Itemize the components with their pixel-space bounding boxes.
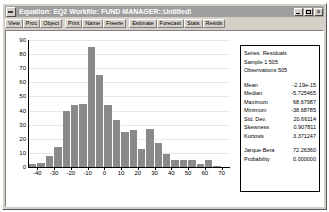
stat-row-jarque-bera: Jarque-Bera 72.26360: [244, 146, 316, 155]
histogram-bar: [63, 111, 71, 167]
histogram-bar: [180, 160, 188, 167]
stat-key-mean: Mean: [244, 81, 258, 90]
stat-value-skewness: 0.907811: [293, 123, 316, 132]
histogram-bar: [113, 120, 121, 167]
stat-row-std-dev: Std. Dev. 20.66114: [244, 115, 316, 124]
histogram-bar: [146, 129, 154, 167]
stat-key-skewness: Skewness: [244, 123, 269, 132]
y-axis-tick-label: 60: [19, 79, 26, 85]
stat-row-kurtosis: Kurtosis 3.371247: [244, 132, 316, 141]
histogram-bar: [155, 143, 163, 167]
stat-row-minimum: Minimum -38.68785: [244, 106, 316, 115]
stat-value-jarque-bera: 72.26360: [293, 146, 316, 155]
histogram-bar: [130, 130, 138, 167]
stat-value-mean: -2.19e-15: [292, 81, 316, 90]
x-axis-tick-label: 10: [118, 170, 125, 177]
title-bar: Equation: EQ2 Workfile: FUND MANAGER::Un…: [5, 6, 324, 17]
stat-key-median: Median: [244, 89, 262, 98]
x-axis-tick-label: 50: [185, 170, 192, 177]
stat-row-skewness: Skewness 0.907811: [244, 123, 316, 132]
histogram-bar: [205, 160, 213, 167]
histogram-bar: [121, 132, 129, 167]
y-axis-tick-label: 10: [19, 150, 26, 156]
x-axis-tick-label: -20: [67, 170, 76, 177]
histogram-bar: [46, 156, 54, 167]
stat-key-probability: Probability: [244, 155, 270, 164]
stat-value-maximum: 68.67987: [293, 98, 316, 107]
client-area: 0102030405060708090 -40-30-20-1001020304…: [5, 30, 324, 207]
stat-key-jarque-bera: Jarque-Bera: [244, 146, 274, 155]
window-title: Equation: EQ2 Workfile: FUND MANAGER::Un…: [19, 8, 294, 16]
window-controls: [294, 8, 323, 16]
y-axis-tick-label: 20: [19, 136, 26, 142]
x-axis-tick-label: 0: [103, 170, 106, 177]
histogram-bar: [71, 105, 79, 167]
toolbar-button-print[interactable]: Print: [65, 19, 82, 28]
y-axis-tick-label: 90: [19, 37, 26, 43]
y-axis-tick-label: 30: [19, 122, 26, 128]
stat-row-mean: Mean -2.19e-15: [244, 81, 316, 90]
stat-observations-label: Observations 505: [244, 66, 316, 75]
toolbar-button-stats[interactable]: Stats: [184, 19, 203, 28]
histogram-bar: [96, 75, 104, 167]
stat-value-std-dev: 20.66114: [293, 115, 316, 124]
eviews-equation-window: Equation: EQ2 Workfile: FUND MANAGER::Un…: [0, 0, 329, 212]
stat-value-median: -5.725465: [291, 89, 316, 98]
histogram-bar: [54, 147, 62, 167]
close-icon[interactable]: [314, 8, 323, 16]
stat-key-maximum: Maximum: [244, 98, 268, 107]
toolbar-button-proc[interactable]: Proc: [23, 19, 40, 28]
toolbar-button-view[interactable]: View: [5, 19, 23, 28]
y-axis-tick-label: 40: [19, 108, 26, 114]
stat-value-minimum: -38.68785: [291, 106, 316, 115]
histogram-bar: [163, 154, 171, 167]
minimize-icon[interactable]: [294, 8, 303, 16]
histogram-bar: [138, 149, 146, 167]
toolbar-button-estimate[interactable]: Estimate: [129, 19, 156, 28]
x-axis-tick-label: 30: [151, 170, 158, 177]
toolbar-button-freeze[interactable]: Freeze: [103, 19, 126, 28]
toolbar-button-resids[interactable]: Resids: [203, 19, 226, 28]
histogram-bar: [197, 164, 205, 167]
toolbar-button-name[interactable]: Name: [82, 19, 103, 28]
histogram-bar: [79, 104, 87, 168]
stat-key-minimum: Minimum: [244, 106, 266, 115]
histogram-bar: [104, 105, 112, 167]
stat-series-label: Series: Residuals: [244, 49, 316, 58]
x-axis-tick-label: -40: [33, 170, 42, 177]
x-axis-tick-label: -10: [83, 170, 92, 177]
stat-value-kurtosis: 3.371247: [293, 132, 316, 141]
y-axis-tick-label: 70: [19, 65, 26, 71]
y-axis-labels: 0102030405060708090: [9, 40, 26, 167]
toolbar: View Proc Object Print Name Freeze Estim…: [5, 18, 324, 29]
histogram-bar: [37, 163, 45, 167]
stat-value-probability: 0.000000: [293, 155, 316, 164]
y-axis-tick-label: 50: [19, 93, 26, 99]
maximize-icon[interactable]: [304, 8, 313, 16]
x-axis-tick-label: 70: [218, 170, 225, 177]
stat-row-median: Median -5.725465: [244, 89, 316, 98]
y-axis-tick-label: 80: [19, 51, 26, 57]
histogram-bar: [188, 160, 196, 167]
stat-key-std-dev: Std. Dev.: [244, 115, 266, 124]
stat-row-probability: Probability 0.000000: [244, 155, 316, 164]
window-frame: Equation: EQ2 Workfile: FUND MANAGER::Un…: [2, 3, 327, 210]
statistics-panel: Series: Residuals Sample 1 505 Observati…: [240, 45, 320, 192]
histogram-bar: [213, 166, 221, 167]
stat-sample-label: Sample 1 505: [244, 58, 316, 67]
histogram-bars: [29, 40, 230, 167]
x-axis-tick-label: 20: [135, 170, 142, 177]
stat-row-maximum: Maximum 68.67987: [244, 98, 316, 107]
histogram-bar: [171, 160, 179, 167]
x-axis-tick-label: -30: [50, 170, 59, 177]
toolbar-button-forecast[interactable]: Forecast: [157, 19, 184, 28]
system-menu-icon[interactable]: [6, 7, 16, 17]
stat-key-kurtosis: Kurtosis: [244, 132, 264, 141]
toolbar-button-object[interactable]: Object: [40, 19, 62, 28]
histogram-bar: [29, 164, 37, 167]
x-axis-tick-label: 60: [202, 170, 209, 177]
x-axis-labels: -40-30-20-10010203040506070: [6, 170, 246, 180]
histogram-bar: [88, 47, 96, 167]
x-axis-tick-label: 40: [168, 170, 175, 177]
